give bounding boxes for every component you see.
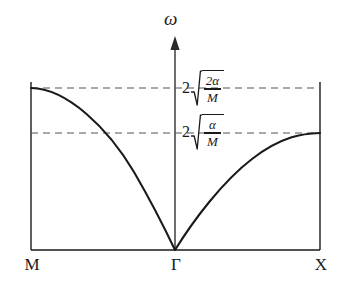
radical-sign-icon — [191, 114, 202, 150]
fraction-numerator-upper: 2α — [206, 74, 219, 88]
level-label-lower: 2 α M — [182, 114, 224, 150]
x-tick-label-M: M — [20, 255, 44, 275]
radical-upper: 2α M — [191, 70, 224, 106]
level-upper-coefficient: 2 — [182, 79, 191, 97]
x-tick-label-gamma: Γ — [164, 255, 188, 275]
phonon-dispersion-figure: ω M Γ X 2 2α M 2 — [0, 0, 343, 297]
level-lower-coefficient: 2 — [182, 123, 191, 141]
radical-sign-icon — [191, 70, 202, 106]
level-label-upper: 2 2α M — [182, 70, 224, 106]
fraction-denominator-lower: M — [207, 135, 218, 149]
radicand-lower: α M — [202, 114, 224, 150]
radical-lower: α M — [191, 114, 224, 150]
fraction-numerator-lower: α — [209, 118, 216, 132]
radicand-upper: 2α M — [202, 70, 224, 106]
x-tick-label-X: X — [309, 255, 333, 275]
y-axis-arrowhead — [170, 36, 179, 50]
plot-canvas — [0, 0, 343, 297]
dispersion-curve-left-branch — [31, 88, 175, 250]
dispersion-curve-right-branch — [175, 133, 320, 250]
fraction-denominator-upper: M — [207, 91, 218, 105]
y-axis-title-omega: ω — [164, 8, 177, 30]
